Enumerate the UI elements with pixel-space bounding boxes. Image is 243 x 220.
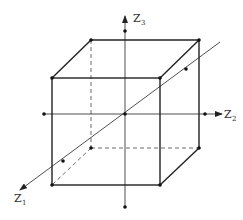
z1-axis: [20, 42, 220, 190]
z1-label: Z 1: [14, 192, 26, 207]
svg-text:Z: Z: [224, 108, 232, 121]
axes: [20, 16, 222, 207]
svg-text:Z: Z: [14, 192, 22, 205]
svg-text:Z: Z: [133, 12, 141, 25]
z2-label: Z 2: [224, 108, 236, 123]
cube-diagram: Z 3 Z 2 Z 1: [0, 0, 243, 220]
svg-text:3: 3: [141, 19, 145, 27]
svg-text:2: 2: [232, 115, 236, 123]
svg-text:1: 1: [22, 199, 26, 207]
z3-label: Z 3: [133, 12, 145, 27]
